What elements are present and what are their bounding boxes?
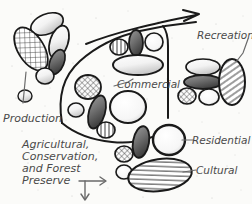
blob-production-d (36, 68, 54, 84)
blob-recreation-a (186, 59, 220, 75)
blob-commercial-plain-a (145, 33, 163, 51)
blob-recreation-c (199, 89, 219, 105)
blob-commercial-large-b (110, 91, 146, 123)
blob-recreation-b (184, 75, 222, 89)
blob-residential-main (153, 125, 185, 155)
blob-commercial-hatch-b (97, 122, 115, 138)
blob-recreation-hatched-main (219, 59, 245, 105)
blob-commercial-dark-a (129, 30, 143, 56)
blob-production-e (18, 90, 32, 102)
label-agricultural-line-4: Preserve (22, 174, 70, 187)
blob-residential-crosshatch (115, 146, 133, 162)
label-cultural: Cultural (196, 164, 237, 176)
blob-commercial-crosshatch (75, 75, 101, 99)
blob-commercial-large-a (113, 55, 163, 75)
blob-commercial-small-a (68, 103, 84, 117)
blob-commercial-hatch-a (110, 39, 128, 55)
label-production: Production (3, 112, 62, 125)
land-use-sketch-diagram: Production Commercial Recreation Residen… (0, 0, 252, 204)
label-recreation: Recreation (197, 29, 252, 41)
recreation-cluster (178, 59, 245, 105)
label-commercial: Commercial (117, 78, 180, 90)
sketch-canvas: Production Commercial Recreation Residen… (0, 0, 252, 204)
blob-recreation-crosshatch (178, 88, 196, 104)
label-residential: Residential (192, 134, 250, 146)
